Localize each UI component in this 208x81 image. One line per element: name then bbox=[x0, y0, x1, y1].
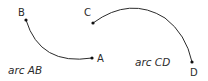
arc-cd-curve bbox=[93, 8, 192, 62]
point-c-dot bbox=[91, 21, 94, 24]
diagram-svg: B A arc AB C D arc CD bbox=[0, 0, 208, 81]
point-d-label: D bbox=[190, 67, 198, 78]
point-a-label: A bbox=[97, 53, 104, 64]
point-b-dot bbox=[24, 18, 27, 21]
arc-cd-caption: arc CD bbox=[135, 56, 170, 68]
arc-ab-curve bbox=[26, 20, 92, 59]
point-b-label: B bbox=[18, 7, 25, 18]
arc-ab-caption: arc AB bbox=[8, 64, 42, 76]
point-a-dot bbox=[90, 56, 93, 59]
point-d-dot bbox=[190, 60, 193, 63]
point-c-label: C bbox=[84, 7, 91, 18]
arcs-diagram: B A arc AB C D arc CD bbox=[0, 0, 208, 81]
